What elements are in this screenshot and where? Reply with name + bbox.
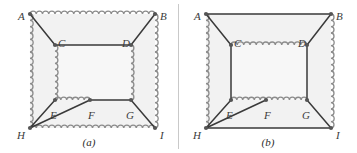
vertex-dot-H <box>28 126 32 130</box>
vertex-label-F: F <box>263 109 271 121</box>
figure-panel-a: ABCDEFGHI(a) <box>0 0 178 153</box>
vertex-dot-G <box>305 98 309 102</box>
vertex-dot-B <box>329 12 333 16</box>
vertex-dot-C <box>229 43 233 47</box>
vertex-dot-B <box>153 12 157 16</box>
wavy-edge-BI <box>331 14 334 128</box>
vertex-label-H: H <box>16 129 26 141</box>
vertex-label-B: B <box>160 10 167 22</box>
vertex-dot-C <box>53 43 57 47</box>
diagram-svg-b: ABCDEFGHI(b) <box>179 0 357 153</box>
vertex-dot-I <box>329 126 333 130</box>
inner-region-fill <box>55 45 131 100</box>
wavy-edge-AB <box>30 11 155 14</box>
vertex-label-B: B <box>336 10 343 22</box>
vertex-label-C: C <box>58 37 66 49</box>
vertex-label-I: I <box>159 129 165 141</box>
vertex-label-D: D <box>297 37 306 49</box>
vertex-label-G: G <box>302 109 310 121</box>
inner-region-fill <box>231 45 307 100</box>
vertex-label-F: F <box>87 109 95 121</box>
vertex-label-G: G <box>126 109 134 121</box>
vertex-label-I: I <box>335 129 341 141</box>
vertex-dot-E <box>229 98 233 102</box>
panel-caption-b: (b) <box>262 136 275 149</box>
vertex-label-D: D <box>121 37 130 49</box>
wavy-edge-BI <box>155 14 158 128</box>
vertex-label-E: E <box>49 109 57 121</box>
vertex-dot-F <box>88 98 92 102</box>
vertex-dot-H <box>204 126 208 130</box>
vertex-label-E: E <box>225 109 233 121</box>
panel-caption-a: (a) <box>83 136 96 149</box>
vertex-dot-I <box>153 126 157 130</box>
vertex-label-A: A <box>193 10 201 22</box>
vertex-label-A: A <box>17 10 25 22</box>
vertex-dot-G <box>129 98 133 102</box>
vertex-label-C: C <box>234 37 242 49</box>
vertex-dot-F <box>264 98 268 102</box>
diagram-svg-a: ABCDEFGHI(a) <box>0 0 178 153</box>
figure-panel-b: ABCDEFGHI(b) <box>179 0 357 153</box>
vertex-dot-A <box>204 12 208 16</box>
vertex-dot-E <box>53 98 57 102</box>
figure-container: ABCDEFGHI(a) ABCDEFGHI(b) <box>0 0 357 153</box>
vertex-label-H: H <box>192 129 202 141</box>
vertex-dot-A <box>28 12 32 16</box>
